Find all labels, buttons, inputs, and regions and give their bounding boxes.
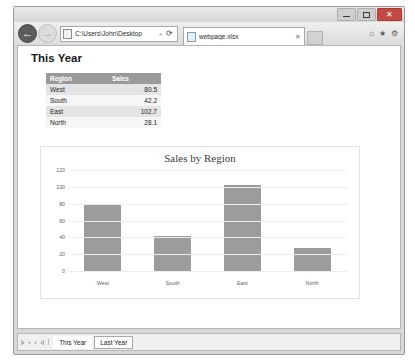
chart-y-tick-label: 120 (56, 167, 65, 173)
favorites-star-icon[interactable]: ★ (379, 29, 386, 38)
chart-y-tick-label: 60 (59, 218, 65, 224)
chart-title: Sales by Region (41, 152, 359, 164)
sheet-navigation-controls: |‹ ‹ › ›| (20, 339, 49, 345)
cell-sales: 42.2 (108, 95, 161, 106)
cell-region: North (46, 117, 108, 128)
search-icon[interactable]: ⌕ (159, 30, 163, 38)
page-title: This Year (31, 52, 82, 64)
cell-sales: 102.7 (108, 106, 161, 117)
chart-y-tick-label: 80 (59, 201, 65, 207)
page-content: This Year Region Sales West 80.5 (17, 45, 401, 329)
cell-sales: 80.5 (108, 84, 161, 95)
chart-gridline: 120 (68, 170, 347, 171)
window-controls: ✕ (337, 8, 402, 21)
cell-region: South (46, 95, 108, 106)
chart-y-tick-label: 40 (59, 234, 65, 240)
address-input[interactable]: C:\Users\John\Desktop (75, 30, 156, 37)
sheet-tab-bar: |‹ ‹ › ›| This Year Last Year (17, 333, 401, 351)
table-row: East 102.7 (46, 106, 161, 117)
window-titlebar: ✕ (14, 7, 404, 22)
chart-gridline: 40 (68, 237, 347, 238)
sales-table: Region Sales West 80.5 South 42.2 East (46, 73, 161, 128)
tab-title: webpage.xlsx (199, 33, 295, 40)
refresh-icon[interactable]: ⟳ (166, 29, 173, 38)
minimize-button[interactable] (337, 8, 356, 21)
sales-chart: Sales by Region 020406080100120 WestSout… (40, 146, 360, 299)
last-sheet-icon[interactable]: ›| (40, 339, 46, 345)
chart-gridline: 20 (68, 254, 347, 255)
cell-region: East (46, 106, 108, 117)
cell-sales: 28.1 (108, 117, 161, 128)
previous-sheet-icon[interactable]: ‹ (28, 339, 32, 345)
chart-x-tick-label: North (277, 280, 347, 286)
sheet-tab-last-year[interactable]: Last Year (94, 336, 133, 349)
gear-icon[interactable]: ⚙ (391, 29, 398, 38)
chart-gridline: 80 (68, 204, 347, 205)
chart-x-tick-label: West (68, 280, 138, 286)
first-sheet-icon[interactable]: |‹ (20, 339, 26, 345)
minimize-icon (343, 16, 350, 17)
back-arrow-icon: ← (22, 28, 33, 39)
table-row: West 80.5 (46, 84, 161, 95)
chart-gridline: 100 (68, 187, 347, 188)
screenshot-root: ✕ ← → C:\Users\John\Desktop ⌕ ⟳ webpage.… (0, 0, 415, 363)
chart-plot-area: 020406080100120 (68, 171, 347, 272)
table-row: North 28.1 (46, 117, 161, 128)
forward-arrow-icon: → (42, 28, 53, 39)
next-sheet-icon[interactable]: › (34, 339, 38, 345)
maximize-button[interactable] (357, 8, 376, 21)
table-row: South 42.2 (46, 95, 161, 106)
cell-region: West (46, 84, 108, 95)
browser-window: ✕ ← → C:\Users\John\Desktop ⌕ ⟳ webpage.… (13, 6, 405, 355)
close-icon: ✕ (386, 11, 393, 19)
browser-toolbar-icons: ⌂ ★ ⚙ (369, 29, 404, 38)
chart-bar (224, 185, 261, 271)
column-header-sales: Sales (108, 73, 161, 84)
chart-y-tick-label: 0 (62, 268, 65, 274)
chart-gridline: 0 (68, 271, 347, 272)
table-header-row: Region Sales (46, 73, 161, 84)
chart-x-tick-label: South (138, 280, 208, 286)
home-icon[interactable]: ⌂ (369, 29, 374, 38)
maximize-icon (363, 12, 370, 18)
page-favicon-icon (63, 29, 72, 39)
column-header-region: Region (46, 73, 108, 84)
browser-navbar: ← → C:\Users\John\Desktop ⌕ ⟳ webpage.xl… (14, 22, 404, 45)
chart-x-tick-labels: WestSouthEastNorth (68, 280, 347, 286)
browser-tab[interactable]: webpage.xlsx ✕ (183, 27, 305, 45)
address-bar[interactable]: C:\Users\John\Desktop ⌕ ⟳ (60, 26, 178, 42)
sheet-tab-this-year[interactable]: This Year (53, 336, 92, 349)
chart-x-tick-label: East (208, 280, 278, 286)
chart-gridline: 60 (68, 221, 347, 222)
back-button[interactable]: ← (18, 24, 37, 43)
chart-y-tick-label: 100 (56, 184, 65, 190)
tab-close-icon[interactable]: ✕ (295, 33, 301, 41)
new-tab-button[interactable] (307, 31, 323, 45)
chart-y-tick-label: 20 (59, 251, 65, 257)
forward-button[interactable]: → (38, 24, 57, 43)
close-button[interactable]: ✕ (377, 8, 402, 21)
tab-favicon-icon (187, 32, 196, 42)
chart-bar (294, 248, 331, 271)
